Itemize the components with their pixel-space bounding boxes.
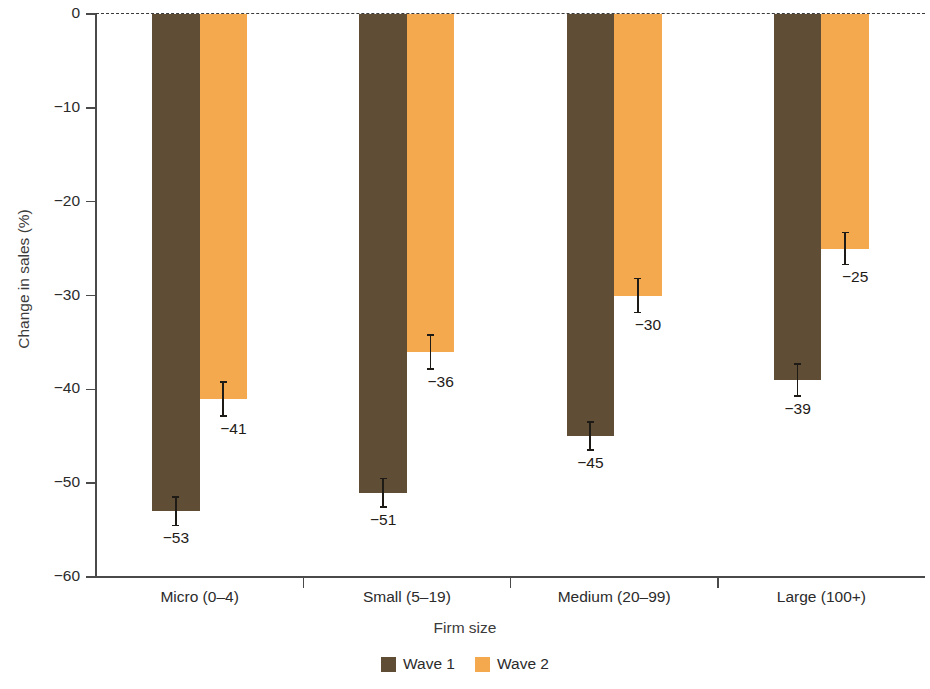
error-bar-cap-bottom xyxy=(634,312,641,314)
y-axis-tick-label: −40 xyxy=(24,379,80,397)
y-axis-tick-label: −60 xyxy=(24,567,80,585)
bar-value-label: −51 xyxy=(360,511,406,529)
x-axis-tick xyxy=(510,577,512,588)
error-bar-cap-bottom xyxy=(842,264,849,266)
chart-legend: Wave 1Wave 2 xyxy=(0,655,930,673)
error-bar-stem xyxy=(637,278,639,314)
error-bar-stem xyxy=(222,381,224,417)
y-axis-tick xyxy=(86,576,96,578)
error-bar xyxy=(842,232,849,266)
y-axis-tick-label: −10 xyxy=(24,98,80,116)
y-axis-tick xyxy=(86,389,96,391)
error-bar-cap-bottom xyxy=(587,449,594,451)
legend-swatch-icon xyxy=(475,657,490,672)
bar-value-label: −36 xyxy=(418,373,464,391)
bar-value-label: −45 xyxy=(567,454,613,472)
bar-value-label: −30 xyxy=(625,316,671,334)
bar-value-label: −41 xyxy=(210,420,256,438)
error-bar-stem xyxy=(430,334,432,370)
bar-chart: Change in sales (%) 0−10−20−30−40−50−60 … xyxy=(0,0,930,689)
x-axis-title: Firm size xyxy=(0,619,930,637)
error-bar xyxy=(172,496,179,526)
error-bar-stem xyxy=(797,363,799,397)
x-axis-tick xyxy=(717,577,719,588)
x-axis-category-label: Small (5–19) xyxy=(303,588,510,606)
x-axis-category-label: Micro (0–4) xyxy=(96,588,303,606)
error-bar-cap-bottom xyxy=(794,395,801,397)
y-axis-tick xyxy=(86,295,96,297)
error-bar xyxy=(427,334,434,370)
legend-item: Wave 2 xyxy=(475,655,549,673)
error-bar xyxy=(634,278,641,314)
y-axis-tick-label: 0 xyxy=(24,4,80,22)
error-bar-cap-bottom xyxy=(220,415,227,417)
bar-wave-1 xyxy=(567,14,615,436)
error-bar-stem xyxy=(844,232,846,266)
y-axis-tick-label: −50 xyxy=(24,473,80,491)
error-bar xyxy=(587,421,594,451)
x-axis-tick xyxy=(303,577,305,588)
error-bar-stem xyxy=(589,421,591,451)
legend-item: Wave 1 xyxy=(381,655,455,673)
x-axis-category-label: Large (100+) xyxy=(718,588,925,606)
bar-wave-2 xyxy=(614,14,662,296)
error-bar-cap-bottom xyxy=(427,368,434,370)
error-bar-cap-bottom xyxy=(172,525,179,527)
error-bar xyxy=(220,381,227,417)
error-bar xyxy=(380,478,387,508)
error-bar-stem xyxy=(382,478,384,508)
bar-wave-2 xyxy=(821,14,869,249)
bar-wave-1 xyxy=(359,14,407,493)
error-bar-stem xyxy=(175,496,177,526)
y-axis-tick xyxy=(86,201,96,203)
y-axis-tick-label: −30 xyxy=(24,286,80,304)
bar-wave-1 xyxy=(774,14,822,380)
error-bar xyxy=(794,363,801,397)
y-axis-tick xyxy=(86,482,96,484)
error-bar-cap-bottom xyxy=(380,506,387,508)
bar-value-label: −25 xyxy=(832,268,878,286)
x-axis-category-label: Medium (20–99) xyxy=(511,588,718,606)
y-axis-tick-label: −20 xyxy=(24,192,80,210)
bar-value-label: −53 xyxy=(153,529,199,547)
bar-wave-2 xyxy=(407,14,455,352)
bar-wave-1 xyxy=(152,14,200,511)
legend-label: Wave 2 xyxy=(497,655,549,673)
y-axis-tick xyxy=(86,107,96,109)
bar-value-label: −39 xyxy=(775,400,821,418)
bar-wave-2 xyxy=(200,14,248,399)
legend-swatch-icon xyxy=(381,657,396,672)
y-axis-tick xyxy=(86,13,96,15)
legend-label: Wave 1 xyxy=(403,655,455,673)
